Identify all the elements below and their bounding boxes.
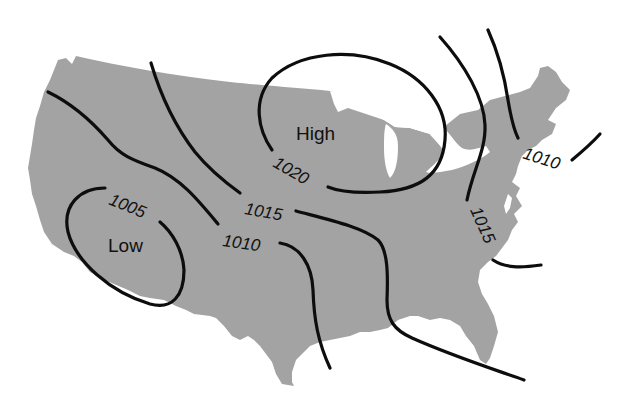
weather-map-canvas: 100510101015102010151010 High Low [0, 0, 627, 405]
label-1010-east: 1010 [521, 144, 563, 174]
isobar-1010-east-offshore [572, 134, 600, 160]
weather-map: 100510101015102010151010 High Low [0, 0, 627, 405]
isobar-1015-east-south [493, 260, 541, 267]
high-pressure-label: High [296, 123, 335, 144]
low-pressure-label: Low [108, 235, 143, 256]
